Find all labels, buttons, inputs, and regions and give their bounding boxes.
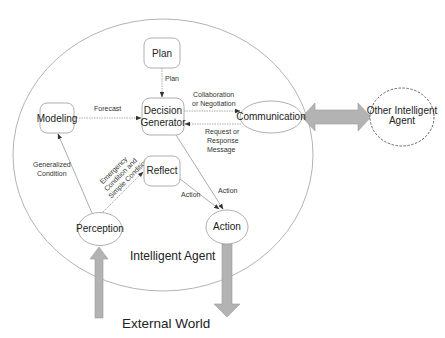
input-arrow-icon [90,247,108,318]
edge-label-decision-action: Action [218,187,238,194]
edge-label-request-3: Message [207,146,236,154]
node-reflect-label: Reflect [146,165,177,176]
edge-label-request-1: Request or [205,128,240,136]
edge-label-request-2: Response [207,137,239,145]
node-communication-label: Communication [236,111,305,122]
node-plan: Plan [144,38,180,68]
node-action-label: Action [213,221,241,232]
node-action: Action [206,210,248,244]
other-agent-label-2: Agent [389,115,415,126]
node-decision-generator: Decision Generator [140,98,186,135]
node-other-intelligent-agent: Other Intelligent Agent [367,88,438,146]
intelligent-agent-diagram: Plan Forecast Collaboration or Negotiati… [0,0,445,338]
edge-label-collaboration-1: Collaboration [193,91,234,98]
bidirectional-arrow-icon [302,103,371,131]
edge-label-reflect-action: Action [181,191,201,198]
edge-label-generalized-1: Generalized [33,161,71,168]
node-decision-label-1: Decision [144,105,182,116]
edge-label-forecast: Forecast [94,105,121,112]
node-perception-label: Perception [76,223,124,234]
node-plan-label: Plan [152,48,172,59]
node-perception: Perception [76,213,124,246]
output-arrow-icon [214,243,240,317]
external-world-label: External World [122,316,210,331]
node-communication: Communication [236,101,305,133]
node-decision-label-2: Generator [140,117,186,128]
node-reflect: Reflect [144,156,180,186]
node-modeling-label: Modeling [37,113,78,124]
edge-label-collaboration-2: or Negotiation [192,100,236,108]
node-modeling: Modeling [37,103,78,133]
intelligent-agent-label: Intelligent Agent [130,249,216,263]
edge-label-generalized-2: Condition [37,170,67,177]
edge-label-plan: Plan [165,75,179,82]
